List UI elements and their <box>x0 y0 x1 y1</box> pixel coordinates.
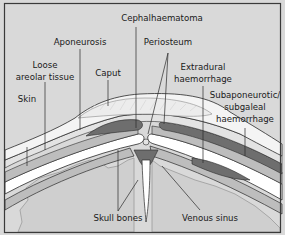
label-venous-sinus: Venous sinus <box>182 213 239 223</box>
label-loose-areolar-2: areolar tissue <box>16 72 75 82</box>
label-periosteum: Periosteum <box>144 37 192 47</box>
label-subaponeurotic-2: subgaleal <box>224 102 265 112</box>
label-subaponeurotic-1: Subaponeurotic/ <box>210 90 281 100</box>
label-aponeurosis: Aponeurosis <box>54 37 107 47</box>
label-caput: Caput <box>95 68 121 78</box>
scalp-haemorrhage-diagram: Cephalhaematoma Aponeurosis Periosteum L… <box>0 0 285 235</box>
label-subaponeurotic-3: haemorrhage <box>216 114 274 124</box>
label-cephalhaematoma: Cephalhaematoma <box>121 13 203 23</box>
label-extradural-2: haemorrhage <box>174 74 232 84</box>
label-extradural-1: Extradural <box>181 62 226 72</box>
suture-node <box>143 139 149 145</box>
label-skull-bones: Skull bones <box>93 213 143 223</box>
label-skin: Skin <box>18 94 36 104</box>
label-loose-areolar-1: Loose <box>33 60 58 70</box>
